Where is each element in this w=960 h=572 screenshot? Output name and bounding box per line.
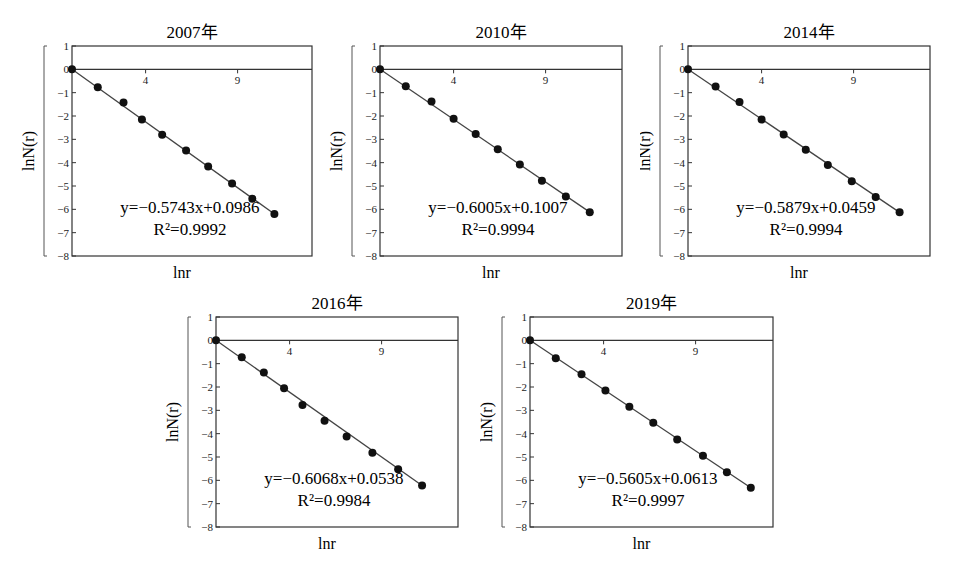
y-tick-label: −5 — [515, 451, 527, 463]
y-tick-label: −6 — [673, 203, 685, 215]
data-point — [238, 353, 246, 361]
y-tick-label: −3 — [57, 133, 69, 145]
x-axis-label: lnr — [790, 264, 808, 281]
y-tick-label: −4 — [515, 428, 527, 440]
y-tick-label: 1 — [372, 40, 378, 52]
y-axis-label: lnN(r) — [328, 131, 346, 171]
data-point — [578, 370, 586, 378]
x-axis-label: lnr — [318, 535, 336, 552]
x-tick-label: 9 — [693, 345, 699, 357]
data-point — [182, 147, 190, 155]
x-tick-label: 4 — [287, 345, 293, 357]
data-point — [418, 481, 426, 489]
x-axis-label: lnr — [173, 264, 191, 281]
y-tick-label: 1 — [680, 40, 686, 52]
y-tick-label: −7 — [57, 227, 69, 239]
data-point — [212, 336, 220, 344]
data-point — [673, 436, 681, 444]
fit-equation: y=−0.5605x+0.0613 — [578, 469, 717, 488]
r-squared: R²=0.9984 — [298, 491, 371, 510]
data-point — [736, 98, 744, 106]
chart-title: 2010年 — [476, 23, 527, 42]
regression-line — [380, 69, 590, 212]
fit-equation: y=−0.6068x+0.0538 — [264, 469, 403, 488]
y-tick-label: −1 — [365, 87, 377, 99]
data-point — [494, 145, 502, 153]
x-tick-label: 9 — [543, 74, 549, 86]
y-tick-label: −8 — [515, 521, 527, 533]
y-tick-label: −6 — [201, 474, 213, 486]
y-axis-label: lnN(r) — [164, 402, 182, 442]
data-point — [120, 98, 128, 106]
data-point — [516, 161, 524, 169]
y-tick-label: −7 — [201, 498, 213, 510]
fit-equation: y=−0.5879x+0.0459 — [736, 198, 875, 217]
data-point — [586, 208, 594, 216]
data-point — [138, 116, 146, 124]
x-tick-label: 9 — [851, 74, 857, 86]
x-tick-label: 4 — [601, 345, 607, 357]
data-point — [270, 210, 278, 218]
y-axis-label: lnN(r) — [640, 131, 654, 171]
y-tick-label: 1 — [64, 40, 70, 52]
data-point — [298, 401, 306, 409]
y-tick-label: −6 — [57, 203, 69, 215]
y-tick-label: −6 — [365, 203, 377, 215]
y-tick-label: −8 — [673, 250, 685, 262]
regression-line — [530, 340, 751, 487]
r-squared: R²=0.9992 — [154, 220, 227, 239]
y-tick-label: −5 — [57, 180, 69, 192]
regression-line — [688, 69, 900, 212]
data-point — [343, 432, 351, 440]
y-tick-label: −2 — [515, 381, 527, 393]
y-tick-label: −4 — [201, 428, 213, 440]
y-tick-label: −8 — [201, 521, 213, 533]
data-point — [158, 131, 166, 139]
y-tick-label: −3 — [365, 133, 377, 145]
y-tick-label: −3 — [515, 404, 527, 416]
y-tick-label: −5 — [673, 180, 685, 192]
regression-line — [216, 340, 422, 485]
data-point — [601, 387, 609, 395]
y-tick-label: −5 — [201, 451, 213, 463]
data-point — [538, 177, 546, 185]
data-point — [699, 452, 707, 460]
data-point — [402, 82, 410, 90]
regression-line — [72, 69, 274, 214]
y-tick-label: −8 — [57, 250, 69, 262]
data-point — [723, 468, 731, 476]
data-point — [747, 484, 755, 492]
y-tick-label: −4 — [365, 157, 377, 169]
data-point — [376, 65, 384, 73]
data-point — [228, 179, 236, 187]
data-point — [428, 98, 436, 106]
x-tick-label: 4 — [759, 74, 765, 86]
data-point — [368, 449, 376, 457]
data-point — [321, 417, 329, 425]
data-point — [552, 354, 560, 362]
data-point — [802, 146, 810, 154]
data-point — [896, 208, 904, 216]
data-point — [260, 369, 268, 377]
data-point — [94, 83, 102, 91]
data-point — [758, 116, 766, 124]
y-tick-label: −3 — [201, 404, 213, 416]
y-tick-label: −1 — [201, 358, 213, 370]
x-tick-label: 4 — [143, 74, 149, 86]
r-squared: R²=0.9994 — [462, 220, 535, 239]
data-point — [204, 162, 212, 170]
chart-panel-2007: 2007年10−1−2−3−4−5−6−7−849y=−0.5743x+0.09… — [0, 0, 320, 286]
data-point — [824, 161, 832, 169]
chart-panel-2014: 2014年10−1−2−3−4−5−6−7−849y=−0.5879x+0.04… — [640, 0, 960, 286]
data-point — [684, 65, 692, 73]
y-tick-label: −2 — [57, 110, 69, 122]
r-squared: R²=0.9994 — [770, 220, 843, 239]
y-tick-label: −1 — [57, 87, 69, 99]
y-tick-label: −5 — [365, 180, 377, 192]
chart-title: 2019年 — [626, 294, 677, 313]
y-tick-label: −2 — [673, 110, 685, 122]
x-tick-label: 9 — [235, 74, 241, 86]
y-tick-label: −2 — [365, 110, 377, 122]
data-point — [848, 177, 856, 185]
data-point — [472, 130, 480, 138]
